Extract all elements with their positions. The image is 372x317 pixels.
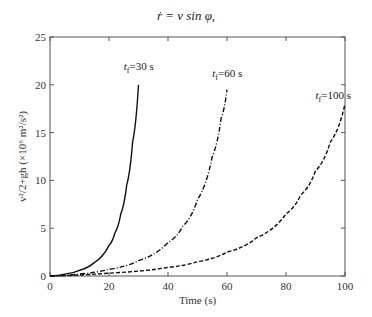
x-tick-label: 100 bbox=[337, 280, 354, 292]
plot-frame bbox=[50, 37, 345, 276]
series-line-3 bbox=[50, 104, 345, 276]
x-tick-label: 0 bbox=[47, 280, 53, 292]
x-tick-label: 60 bbox=[222, 280, 234, 292]
curve-annotation-3: tf=100 s bbox=[316, 89, 351, 104]
y-tick-label: 0 bbox=[41, 270, 47, 282]
series-line-2 bbox=[50, 90, 227, 276]
y-tick-label: 25 bbox=[35, 31, 47, 43]
y-tick-label: 15 bbox=[35, 127, 47, 139]
curve-annotation-1: tf=30 s bbox=[124, 60, 154, 75]
series-line-1 bbox=[50, 85, 139, 276]
y-tick-label: 20 bbox=[35, 79, 47, 91]
y-tick-label: 10 bbox=[35, 174, 47, 186]
x-tick-label: 40 bbox=[163, 280, 175, 292]
x-tick-label: 80 bbox=[281, 280, 293, 292]
line-chart: 0204060801000510152025Time (s)v²/2+gh (×… bbox=[0, 0, 372, 317]
y-axis-label: v²/2+gh (×10⁶ m²/s²) bbox=[16, 111, 29, 202]
y-tick-label: 5 bbox=[41, 222, 47, 234]
curve-annotation-2: tf=60 s bbox=[212, 67, 242, 82]
x-axis-label: Time (s) bbox=[179, 294, 217, 307]
x-tick-label: 20 bbox=[104, 280, 116, 292]
